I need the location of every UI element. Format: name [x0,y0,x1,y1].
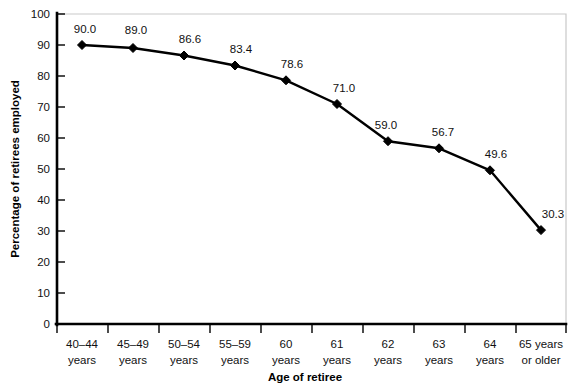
x-tick-label: years [221,354,249,366]
x-tick-label: 55–59 [219,338,251,350]
x-tick-label: years [323,354,351,366]
data-label: 71.0 [333,82,355,94]
series-line-percentage-employed [82,45,541,230]
x-tick-label: 62 [382,338,395,350]
x-tick-label: 63 [433,338,446,350]
data-label: 30.3 [542,208,564,220]
y-tick-label: 0 [44,318,50,330]
x-tick-marks [57,324,566,333]
series-markers [78,41,546,235]
data-point-labels: 90.0 89.0 86.6 83.4 78.6 71.0 59.0 56.7 … [74,23,564,220]
x-tick-label: years [476,354,504,366]
x-axis-tick-labels: 40–44 years 45–49 years 50–54 years 55–5… [66,338,563,366]
x-tick-label: 65 years [519,338,563,350]
y-tick-label: 60 [37,132,50,144]
y-tick-label: 100 [31,8,50,20]
chart-figure: 100 90 80 70 60 50 40 30 20 10 0 [0,0,581,384]
y-tick-label: 70 [37,101,50,113]
data-label: 56.7 [432,126,454,138]
y-tick-label: 40 [37,194,50,206]
x-tick-label: years [374,354,402,366]
y-tick-label: 90 [37,39,50,51]
data-label: 78.6 [281,58,303,70]
y-tick-label: 50 [37,163,50,175]
data-label: 86.6 [179,33,201,45]
x-tick-label: 64 [484,338,497,350]
y-axis-title: Percentage of retirees employed [9,80,21,258]
data-label: 49.6 [485,148,507,160]
x-tick-label: years [170,354,198,366]
y-tick-label: 10 [37,287,50,299]
y-tick-label: 80 [37,70,50,82]
line-chart-canvas: 100 90 80 70 60 50 40 30 20 10 0 [0,0,581,384]
data-label: 83.4 [230,43,253,55]
x-tick-label: 60 [280,338,293,350]
data-label: 90.0 [74,23,96,35]
data-label: 89.0 [125,24,147,36]
x-tick-label: 50–54 [168,338,201,350]
x-tick-label: years [68,354,96,366]
y-tick-label: 20 [37,256,50,268]
x-axis-title: Age of retiree [268,371,342,383]
x-tick-label: years [272,354,300,366]
y-tick-label: 30 [37,225,50,237]
x-tick-label: years [425,354,453,366]
x-tick-label: years [119,354,147,366]
y-axis-tick-labels: 100 90 80 70 60 50 40 30 20 10 0 [31,8,50,330]
x-tick-label: 61 [331,338,344,350]
x-tick-label: 45–49 [117,338,149,350]
data-label: 59.0 [375,119,397,131]
x-tick-label: 40–44 [66,338,99,350]
x-tick-label: or older [522,354,561,366]
